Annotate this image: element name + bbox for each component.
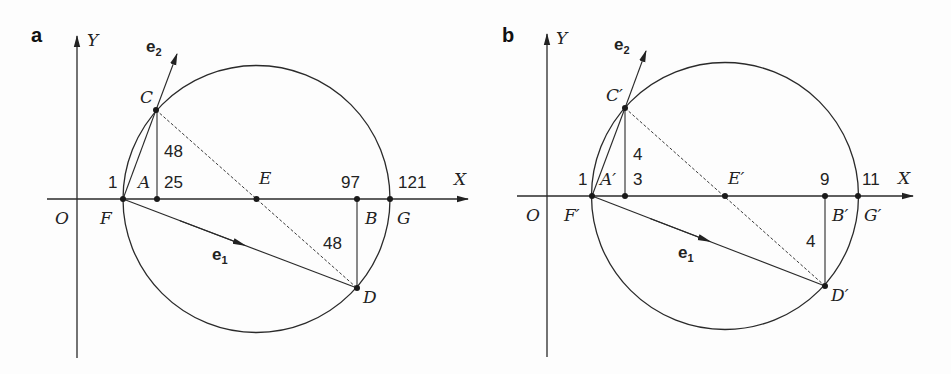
label-e: E′ — [727, 168, 744, 188]
origin-label: O — [526, 205, 540, 225]
label-d: D′ — [830, 285, 849, 305]
value-g: 121 — [398, 173, 426, 192]
label-g: G — [397, 208, 411, 228]
point-f — [589, 193, 595, 199]
label-e: E — [258, 168, 272, 188]
e1-label: e1 — [212, 245, 228, 266]
panel-a: a Y X O F A E B G C D 1 25 — [31, 24, 468, 358]
panel-b-label: b — [502, 24, 514, 46]
label-b: B′ — [831, 205, 848, 225]
y-axis-label: Y — [556, 28, 569, 48]
point-a — [622, 193, 628, 199]
panel-a-label: a — [31, 24, 43, 46]
x-axis-label: X — [452, 169, 467, 189]
value-a: 3 — [633, 170, 642, 189]
e2-label: e2 — [614, 35, 630, 56]
figure-stage: a Y X O F A E B G C D 1 25 — [0, 0, 951, 374]
point-e — [722, 193, 728, 199]
segment-bd-length: 4 — [806, 232, 815, 251]
vector-e2 — [156, 54, 177, 110]
x-axis-label: X — [896, 168, 911, 188]
e1-label: e1 — [678, 243, 694, 264]
label-c: C′ — [606, 85, 623, 105]
figure-svg: a Y X O F A E B G C D 1 25 — [0, 0, 951, 374]
label-g: G′ — [864, 205, 882, 225]
vector-e1 — [650, 218, 705, 239]
label-b: B — [364, 208, 378, 228]
label-f: F — [99, 208, 113, 228]
point-g — [855, 193, 861, 199]
e2-label: e2 — [146, 37, 162, 58]
label-a: A′ — [598, 169, 616, 189]
segment-ac-length: 48 — [164, 142, 183, 161]
value-b: 9 — [820, 170, 829, 189]
point-d — [822, 283, 828, 289]
segment-bd-length: 48 — [323, 234, 342, 253]
point-a — [154, 196, 160, 202]
point-g — [387, 196, 393, 202]
value-g: 11 — [862, 170, 880, 189]
point-c — [622, 105, 628, 111]
point-c — [153, 107, 159, 113]
origin-label: O — [55, 208, 69, 228]
point-e — [254, 196, 260, 202]
segment-ac-length: 4 — [633, 145, 642, 164]
value-b: 97 — [341, 173, 360, 192]
label-d: D — [362, 287, 377, 307]
label-f: F′ — [563, 205, 580, 225]
point-b — [822, 193, 828, 199]
point-f — [120, 196, 126, 202]
label-c: C — [140, 87, 153, 107]
point-d — [354, 285, 360, 291]
value-f: 1 — [108, 173, 117, 192]
value-a: 25 — [164, 173, 183, 192]
y-axis-label: Y — [87, 30, 100, 50]
panel-b: b Y X O F′ A′ E′ B′ G′ C′ D′ 1 — [502, 24, 913, 357]
point-b — [354, 196, 360, 202]
value-f: 1 — [578, 170, 587, 189]
vector-e1 — [180, 221, 240, 244]
vector-e2 — [625, 51, 646, 108]
chord-fd — [592, 196, 825, 286]
label-a: A — [136, 172, 150, 192]
